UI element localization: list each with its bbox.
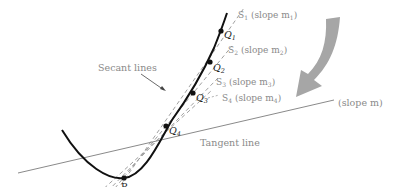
s4-slope-label: S4 (slope m4) xyxy=(222,93,281,104)
point-q4 xyxy=(163,123,168,128)
s4-label-dash xyxy=(208,95,219,98)
s3-slope-label: S3 (slope m3) xyxy=(216,77,275,88)
point-q2 xyxy=(207,59,212,64)
secant-label-pointer xyxy=(141,74,164,90)
q4-label: Q4 xyxy=(169,125,181,138)
point-q1 xyxy=(218,28,223,33)
direction-arrow-icon xyxy=(296,17,340,97)
secant-label-arrowhead-icon xyxy=(160,86,166,91)
tangent-slope-label: (slope m) xyxy=(338,97,383,108)
q1-label: Q1 xyxy=(224,29,236,42)
secant-tangent-diagram: Secant lines Q1 Q2 Q3 Q4 P S1 (slope m1)… xyxy=(0,0,396,187)
s2-slope-label: S2 (slope m2) xyxy=(228,45,287,56)
q2-label: Q2 xyxy=(213,62,225,75)
s1-slope-label: S1 (slope m1) xyxy=(238,10,297,21)
point-p xyxy=(121,175,126,180)
point-q3 xyxy=(190,90,195,95)
p-label: P xyxy=(121,181,128,187)
secant-lines-label: Secant lines xyxy=(98,62,157,73)
points-group xyxy=(121,28,223,180)
tangent-line-label: Tangent line xyxy=(200,137,260,148)
